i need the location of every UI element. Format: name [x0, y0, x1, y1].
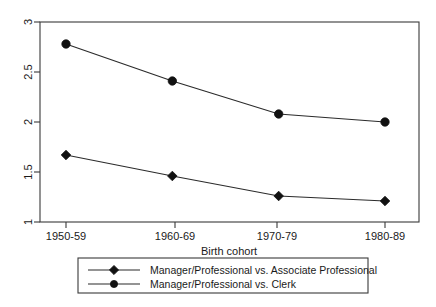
y-axis-ticks [34, 22, 40, 222]
series-2 [62, 40, 389, 126]
series-line [66, 155, 385, 201]
x-tick-label-1950-59: 1950-59 [46, 230, 86, 242]
diamond-marker-icon [168, 171, 178, 181]
y-axis-tick-labels: 3 2.5 2 1.5 1 [22, 19, 34, 225]
y-tick-label-2-5: 2.5 [22, 64, 34, 79]
x-axis-title: Birth cohort [201, 245, 257, 257]
diamond-marker-icon [274, 191, 284, 201]
chart-figure: 3 2.5 2 1.5 1 1950-59 1960-69 1970-79 19… [0, 0, 436, 307]
y-tick-label-2: 2 [22, 119, 34, 125]
legend-label-1: Manager/Professional vs. Associate Profe… [150, 264, 377, 276]
series-line [66, 44, 385, 122]
chart-legend: Manager/Professional vs. Associate Profe… [78, 258, 377, 293]
legend-label-2: Manager/Professional vs. Clerk [150, 278, 297, 290]
plot-frame [40, 22, 419, 222]
y-tick-label-1-5: 1.5 [22, 164, 34, 179]
circle-marker-icon [381, 118, 389, 126]
y-tick-label-3: 3 [22, 19, 34, 25]
circle-marker-icon [62, 40, 70, 48]
x-axis-tick-labels: 1950-59 1960-69 1970-79 1980-89 [46, 230, 405, 242]
circle-marker-icon [274, 110, 282, 118]
data-series-layer [61, 40, 390, 206]
diamond-marker-icon [61, 150, 71, 160]
circle-marker-icon [168, 77, 176, 85]
axes-border [40, 22, 419, 222]
y-tick-label-1: 1 [22, 219, 34, 225]
diamond-marker-icon [380, 196, 390, 206]
series-1 [61, 150, 390, 206]
x-axis-ticks [66, 222, 385, 228]
x-tick-label-1970-79: 1970-79 [257, 230, 297, 242]
circle-marker-icon [110, 280, 117, 287]
x-tick-label-1960-69: 1960-69 [155, 230, 195, 242]
x-tick-label-1980-89: 1980-89 [365, 230, 405, 242]
line-chart: 3 2.5 2 1.5 1 1950-59 1960-69 1970-79 19… [0, 0, 436, 307]
